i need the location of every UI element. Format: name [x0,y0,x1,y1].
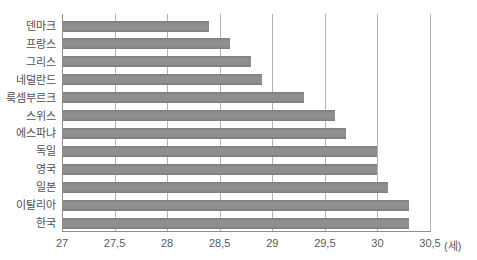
x-tick-label: 30 [357,237,397,249]
x-tick-label: 29,5 [305,237,345,249]
bar-12 [63,218,409,229]
x-tick-label: 29 [252,237,292,249]
gridline [430,14,431,231]
category-label: 네덜란드 [0,73,56,87]
bar-5 [63,92,304,103]
bar-4 [63,74,262,85]
bar-1 [63,21,209,32]
category-label: 스위스 [0,109,56,123]
category-label: 이탈리아 [0,198,56,212]
gridline [325,14,326,231]
bar-11 [63,200,409,211]
category-label: 룩셈부르크 [0,91,56,105]
bar-6 [63,110,335,121]
category-label: 독일 [0,144,56,158]
category-label: 일본 [0,180,56,194]
bar-8 [63,146,377,157]
x-tick-label: 28 [147,237,187,249]
category-label: 에스파냐 [0,126,56,140]
x-tick-label: 27 [42,237,82,249]
y-axis-line [62,14,63,231]
x-axis-line [62,231,431,232]
bar-3 [63,56,251,67]
bar-10 [63,182,388,193]
bar-9 [63,164,377,175]
category-label: 프랑스 [0,37,56,51]
category-label: 한국 [0,216,56,230]
bar-2 [63,38,230,49]
bar-chart: 덴마크프랑스그리스네덜란드룩셈부르크스위스에스파냐독일영국일본이탈리아한국 27… [0,0,477,260]
gridline [377,14,378,231]
x-axis-unit-label: (세) [444,237,461,253]
x-tick-label: 27,5 [95,237,135,249]
gridline [272,14,273,231]
x-tick-label: 28,5 [200,237,240,249]
category-label: 영국 [0,162,56,176]
bar-7 [63,128,346,139]
category-label: 덴마크 [0,19,56,33]
category-label: 그리스 [0,55,56,69]
